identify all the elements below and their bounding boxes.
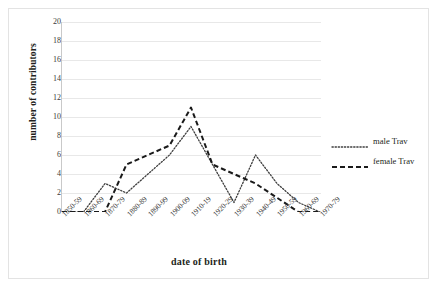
chart-svg: [61, 22, 321, 212]
y-tick-label: 2: [35, 189, 61, 197]
y-tick-label: 10: [35, 113, 61, 121]
gridlines: [61, 23, 321, 213]
y-tick-label: 4: [35, 170, 61, 178]
y-tick-label: 18: [35, 37, 61, 45]
x-axis-title: date of birth: [129, 256, 269, 267]
chart-figure: number of contributors 02468101214161820…: [8, 8, 429, 279]
y-axis-tick-labels: 02468101214161820: [27, 9, 61, 280]
plot-area: [61, 22, 321, 212]
y-tick-label: 16: [35, 56, 61, 64]
legend-item[interactable]: male Trav: [331, 131, 431, 151]
legend-item[interactable]: female Trav: [331, 151, 431, 171]
legend-line-swatch: [331, 137, 369, 145]
y-tick-label: 14: [35, 75, 61, 83]
y-tick-label: 12: [35, 94, 61, 102]
legend-line-swatch: [331, 157, 369, 165]
legend-label: male Trav: [373, 136, 408, 146]
y-tick-label: 8: [35, 132, 61, 140]
x-tick-label: 1970-79: [318, 195, 342, 219]
legend-label: female Trav: [373, 156, 414, 166]
y-tick-label: 6: [35, 151, 61, 159]
chart-legend: male Travfemale Trav: [331, 131, 431, 171]
y-tick-label: 20: [35, 18, 61, 26]
y-tick-label: 0: [35, 208, 61, 216]
